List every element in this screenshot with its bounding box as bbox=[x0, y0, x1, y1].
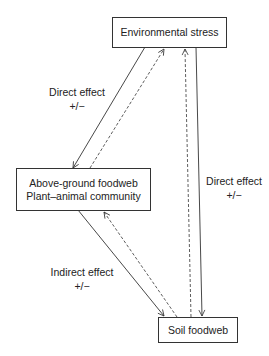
node-environmental-stress: Environmental stress bbox=[112, 17, 227, 48]
node-environmental-stress-label: Environmental stress bbox=[120, 26, 218, 39]
node-above-ground-foodweb: Above-ground foodweb Plant–animal commun… bbox=[16, 168, 151, 211]
node-soil-foodweb: Soil foodweb bbox=[158, 317, 238, 343]
edge-label-title: Indirect effect bbox=[51, 265, 114, 279]
edge-label-stress-to-above: Direct effect +/− bbox=[49, 85, 105, 113]
edge-label-title: Direct effect bbox=[206, 174, 262, 188]
edge-above-to-soil-solid bbox=[78, 210, 164, 316]
edge-label-sign: +/− bbox=[51, 279, 114, 293]
edge-label-above-to-soil: Indirect effect +/− bbox=[51, 265, 114, 293]
edge-soil-to-above-dashed bbox=[104, 212, 177, 317]
edge-label-title: Direct effect bbox=[49, 85, 105, 99]
edge-label-sign: +/− bbox=[49, 99, 105, 113]
edge-soil-to-stress-dashed bbox=[185, 49, 191, 317]
edge-label-sign: +/− bbox=[206, 188, 262, 202]
edge-label-stress-to-soil: Direct effect +/− bbox=[206, 174, 262, 202]
node-above-ground-line2: Plant–animal community bbox=[26, 190, 140, 203]
edge-stress-to-soil-solid bbox=[196, 47, 202, 316]
node-above-ground-line1: Above-ground foodweb bbox=[29, 177, 138, 190]
node-soil-foodweb-label: Soil foodweb bbox=[168, 324, 228, 337]
